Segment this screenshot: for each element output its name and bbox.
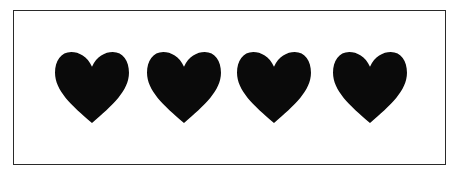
- heart-shape: [55, 52, 129, 123]
- heart-icon: [237, 52, 311, 123]
- heart-icon: [55, 52, 129, 123]
- heart-icon: [333, 52, 407, 123]
- heart-icon: [147, 52, 221, 123]
- heart-shape: [147, 52, 221, 123]
- heart-shape: [237, 52, 311, 123]
- heart-shape: [333, 52, 407, 123]
